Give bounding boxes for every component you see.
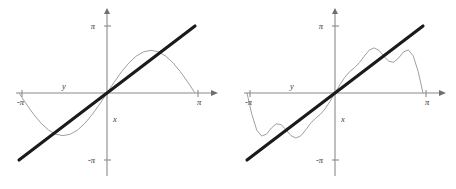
x-axis-neg-pi-label: -π — [245, 97, 253, 107]
y-axis-label: x — [112, 114, 117, 124]
plot-svg-left: π -π -π π y x — [0, 0, 228, 189]
fourier-approximation-figure: π -π -π π y x π -π -π π — [0, 0, 456, 189]
chart-panel-right: π -π -π π y x — [228, 0, 456, 189]
y-axis-neg-pi-label: -π — [88, 155, 96, 165]
x-axis-neg-pi-label: -π — [17, 97, 25, 107]
y-axis-arrowhead — [104, 8, 110, 14]
x-axis-pi-label: π — [197, 97, 202, 107]
y-axis-pi-label: π — [319, 21, 324, 31]
x-axis-label: y — [61, 81, 66, 91]
y-axis-label: x — [340, 114, 345, 124]
chart-panel-left: π -π -π π y x — [0, 0, 228, 189]
y-axis-pi-label: π — [91, 21, 96, 31]
plot-svg-right: π -π -π π y x — [228, 0, 456, 189]
x-axis-arrowhead — [439, 90, 446, 96]
y-axis-arrowhead — [332, 8, 338, 14]
x-axis-arrowhead — [211, 90, 218, 96]
x-axis-pi-label: π — [425, 97, 430, 107]
y-axis-neg-pi-label: -π — [316, 155, 324, 165]
x-axis-label: y — [289, 81, 294, 91]
